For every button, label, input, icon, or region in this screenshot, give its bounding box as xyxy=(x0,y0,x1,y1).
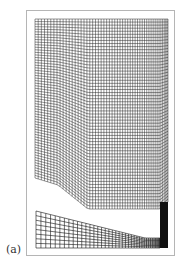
finite-element-mesh xyxy=(0,0,189,268)
panel-label: (a) xyxy=(6,243,21,256)
